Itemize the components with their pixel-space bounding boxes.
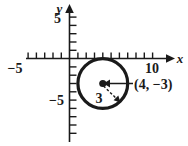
y-tick-label-minus5: −5	[49, 93, 64, 108]
y-tick-label-5: 5	[54, 11, 61, 26]
y-axis-ticks	[70, 17, 77, 133]
x-tick-label-minus5: −5	[8, 61, 23, 76]
radius-dashed-line	[104, 86, 118, 100]
coordinate-plane-svg: y x 5 −5 −5 10 (4, −3) 3	[0, 0, 188, 146]
radius-label: 3	[96, 91, 103, 106]
y-axis-arrowhead	[65, 4, 74, 13]
x-axis-arrowhead	[166, 54, 175, 63]
x-axis-ticks	[28, 53, 153, 59]
center-point-label: (4, −3)	[134, 77, 173, 93]
graph-figure: y x 5 −5 −5 10 (4, −3) 3	[0, 0, 188, 146]
x-tick-label-10: 10	[145, 61, 159, 76]
x-axis-label: x	[176, 51, 184, 66]
radius-indicator	[104, 86, 121, 103]
